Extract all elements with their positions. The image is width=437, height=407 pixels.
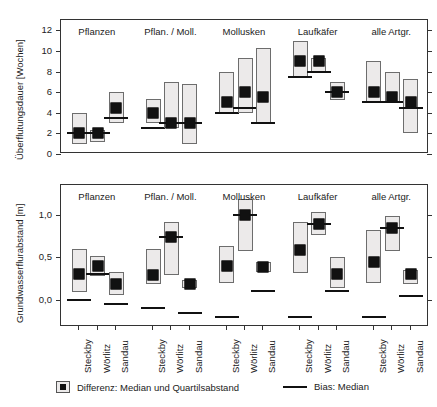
bias-median-line [141,307,165,309]
quartile-box [238,199,253,252]
x-tick-label-steckby: Steckby [230,339,241,373]
y-tick-label: 4 [18,106,52,117]
x-tick [299,326,300,330]
x-tick-label-sandau: Sandau [266,340,277,373]
figure-root: Überflutungsdauer [Wochen] Grundwasserfl… [0,0,437,407]
bias-median-line [67,299,91,301]
y-tick-right [427,113,432,114]
x-tick-label-sandau: Sandau [193,340,204,373]
y-tick-label: 8 [18,65,52,76]
x-tick [78,326,79,330]
bias-median-line [325,290,349,292]
median-marker [148,107,159,118]
group-label: Pflan. / Moll. [144,26,196,37]
legend: Differenz: Median und Quartilsabstand Bi… [56,381,437,399]
y-tick [56,300,61,301]
group-label: Pflanzen [78,26,115,37]
median-marker [405,269,416,280]
x-tick [115,326,116,330]
median-marker [387,223,398,234]
bias-median-line [215,112,239,114]
x-tick-label-sandau: Sandau [119,340,130,373]
y-tick [56,133,61,134]
bias-median-line [215,316,239,318]
median-marker [184,118,195,129]
median-marker [92,260,103,271]
x-tick [226,326,227,330]
x-tick-label-steckby: Steckby [377,339,388,373]
median-marker [387,92,398,103]
median-marker [92,128,103,139]
group-label: Pflan. / Moll. [144,191,196,202]
median-marker [111,102,122,113]
y-tick [56,51,61,52]
x-tick-label-wrlitz: Wörlitz [101,344,112,373]
y-tick-right [427,30,432,31]
x-tick-label-sandau: Sandau [414,340,425,373]
y-tick-label: 10 [18,44,52,55]
group-label: alle Artgr. [371,191,411,202]
bias-median-line [86,273,110,275]
panel-ueberflutungsdauer [60,19,428,153]
bias-median-line [104,303,128,305]
median-marker [240,209,251,220]
x-tick-label-steckby: Steckby [82,339,93,373]
bias-median-line [399,295,423,297]
y-tick-right [427,215,432,216]
quartile-box [164,222,179,276]
y-tick [56,30,61,31]
x-tick [262,326,263,330]
group-label: Laufkäfer [298,191,338,202]
y-tick-label: 0 [18,148,52,159]
y-tick [56,154,61,155]
bias-median-line [251,122,275,124]
x-tick-label-steckby: Steckby [156,339,167,373]
y-tick-label: 0,0 [18,293,52,304]
quartile-box [182,84,197,144]
bias-median-line [362,316,386,318]
y-tick-label: 2 [18,127,52,138]
x-tick [373,326,374,330]
median-marker [332,269,343,280]
bias-median-line [251,290,275,292]
x-tick [391,326,392,330]
median-marker [111,278,122,289]
y-tick [56,215,61,216]
median-marker [295,244,306,255]
median-marker [166,118,177,129]
bias-median-line [141,127,165,129]
median-marker [258,261,269,272]
x-tick [189,326,190,330]
legend-item-bias: Bias: Median [283,381,369,392]
median-marker [74,128,85,139]
y-axis-title-bottom: Grundwasserflurabstand [m] [14,204,25,323]
quartile-box [256,48,271,123]
median-marker [166,231,177,242]
x-tick [336,326,337,330]
quartile-box [238,58,253,113]
bias-median-line [233,107,257,109]
median-marker [313,219,324,230]
y-tick-right [427,72,432,73]
y-tick [56,113,61,114]
median-marker [240,87,251,98]
y-tick [56,257,61,258]
group-label: Laufkäfer [298,26,338,37]
x-tick-label-wrlitz: Wörlitz [174,344,185,373]
legend-item-differenz: Differenz: Median und Quartilsabstand [56,381,239,393]
median-marker [258,92,269,103]
plot-area-top [61,20,427,152]
line-marker-icon [283,386,307,388]
x-tick-label-wrlitz: Wörlitz [322,344,333,373]
y-tick-right [427,300,432,301]
bias-median-line [178,312,202,314]
plot-area-bottom [61,185,427,325]
median-marker [368,257,379,268]
y-tick-right [427,257,432,258]
median-marker [148,270,159,281]
bias-median-line [104,117,128,119]
median-marker [74,269,85,280]
group-label: Pflanzen [78,191,115,202]
legend-label-bias: Bias: Median [314,381,369,392]
y-tick [56,72,61,73]
